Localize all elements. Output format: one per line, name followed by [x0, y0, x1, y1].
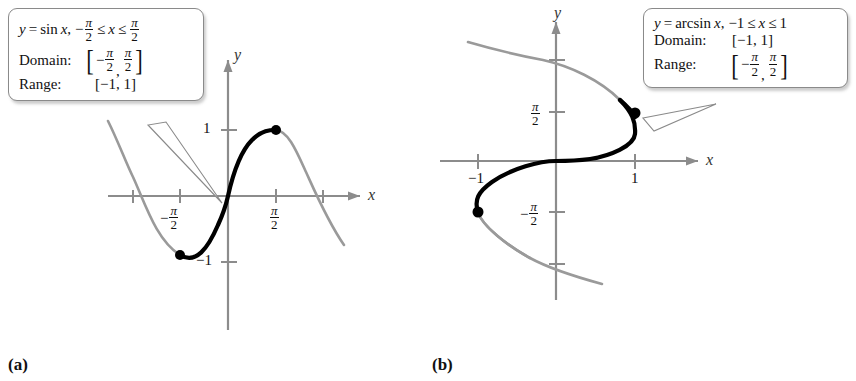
range-interval: [ − π 2 , π 2 ]: [730, 51, 789, 79]
minus-sign: −: [160, 210, 168, 227]
callout-box-sine: y = sin x , − π 2 ≤ x ≤ π 2 Domain:: [8, 8, 204, 101]
equation-le-left: ≤: [94, 22, 108, 38]
equation-upper-fraction: π 2: [130, 16, 139, 44]
interval-comma: ,: [761, 69, 767, 83]
range-label: Range:: [654, 57, 722, 73]
y-tick-label-neg-half-pi: − π 2: [520, 200, 539, 228]
fraction-neg-half-pi: π 2: [169, 204, 178, 232]
fraction-denominator: 2: [529, 213, 538, 228]
bracket-open: [: [731, 53, 739, 77]
fraction-numerator: π: [130, 16, 139, 30]
fraction-neg-half-pi: π 2: [750, 50, 759, 78]
x-axis-label: x: [368, 186, 375, 204]
callout-range-line: Range: [−1, 1]: [19, 77, 193, 93]
x-tick-label-neg-half-pi: − π 2: [160, 204, 179, 232]
y-axis-arrow: [224, 60, 233, 72]
domain-interval: [ − π 2 , π 2 ]: [85, 46, 144, 74]
x-tick-label-one: 1: [631, 170, 639, 187]
y-axis-arrow: [552, 22, 561, 34]
fraction-neg-half-pi: π 2: [529, 200, 538, 228]
callout-domain-line: Domain: [ − π 2 , π 2: [19, 46, 193, 74]
minus-sign: −: [96, 54, 104, 68]
range-label: Range:: [19, 77, 85, 93]
endpoint-dot-lower: [175, 250, 185, 260]
fraction-denominator: 2: [124, 59, 133, 74]
figure-root: y x − π 2 π 2 1 −1 y = sin x ,: [0, 0, 856, 381]
fraction-half-pi: π 2: [124, 46, 133, 74]
fraction-numerator: π: [529, 200, 538, 214]
fraction-denominator: 2: [85, 29, 94, 44]
equation-lhs: y: [19, 22, 26, 38]
callout-equation-line: y = sin x , − π 2 ≤ x ≤ π 2: [19, 16, 193, 44]
fraction-denominator: 2: [750, 64, 759, 79]
domain-label: Domain:: [19, 53, 85, 69]
fraction-denominator: 2: [169, 217, 178, 232]
equation-mid-variable: x: [759, 16, 766, 32]
equation-mid-variable: x: [108, 22, 115, 38]
bracket-close: ]: [781, 53, 789, 77]
callout-domain-line: Domain: [−1, 1]: [654, 33, 837, 49]
fraction-numerator: π: [105, 46, 114, 60]
domain-label: Domain:: [654, 33, 722, 49]
range-value: [−1, 1]: [85, 77, 136, 93]
x-axis-label: x: [706, 151, 713, 169]
equation-lhs: y: [654, 16, 661, 32]
sine-curve-muted: [108, 121, 344, 258]
interval-left-endpoint: − π 2: [95, 46, 116, 74]
equation-upper-bound: 1: [780, 16, 788, 32]
y-axis-label: y: [554, 4, 561, 22]
equation-function: sin: [40, 22, 58, 38]
equation-le-left: ≤: [744, 16, 758, 32]
panel-a: y x − π 2 π 2 1 −1 y = sin x ,: [0, 0, 430, 381]
callout-tail-b: [643, 104, 716, 131]
fraction-numerator: π: [270, 204, 279, 218]
fraction-half-pi: π 2: [531, 100, 540, 128]
endpoint-dot-upper: [630, 108, 641, 119]
equation-lower-sign: −: [71, 22, 83, 38]
callout-box-arcsine: y = arcsin x , −1 ≤ x ≤ 1 Domain: [−1, 1…: [643, 8, 848, 88]
fraction-denominator: 2: [130, 29, 139, 44]
fraction-numerator: π: [124, 46, 133, 60]
panel-caption-b: (b): [432, 355, 453, 375]
x-axis-arrow: [348, 192, 360, 201]
fraction-numerator: π: [769, 50, 778, 64]
y-tick-label-neg-one: −1: [196, 252, 212, 269]
endpoint-dot-upper: [271, 125, 281, 135]
equation-lower-fraction: π 2: [85, 16, 94, 44]
y-axis-label: y: [234, 46, 241, 64]
callout-tail-a: [148, 122, 222, 203]
fraction-neg-half-pi: π 2: [105, 46, 114, 74]
minus-sign: −: [741, 58, 749, 72]
panel-caption-a: (a): [8, 355, 28, 375]
fraction-numerator: π: [750, 50, 759, 64]
x-tick-label-half-pi: π 2: [269, 204, 280, 232]
equation-variable: x: [58, 22, 68, 38]
fraction-denominator: 2: [531, 113, 540, 128]
equation-lower-bound: −1: [724, 16, 744, 32]
bracket-open: [: [86, 48, 94, 72]
callout-equation-line: y = arcsin x , −1 ≤ x ≤ 1: [654, 16, 837, 32]
minus-sign: −: [520, 206, 528, 223]
interval-right-endpoint: π 2: [122, 46, 135, 74]
equation-variable: x: [711, 16, 721, 32]
fraction-denominator: 2: [105, 59, 114, 74]
fraction-denominator: 2: [769, 64, 778, 79]
fraction-numerator: π: [85, 16, 94, 30]
panel-b: y x −1 1 π 2 − π 2 y = arcsin x ,: [430, 0, 856, 381]
bracket-close: ]: [136, 48, 144, 72]
x-tick-label-neg-one: −1: [468, 170, 484, 187]
y-tick-label-one: 1: [203, 120, 211, 137]
fraction-numerator: π: [531, 100, 540, 114]
fraction-half-pi: π 2: [270, 204, 279, 232]
equation-equals: =: [661, 16, 675, 32]
interval-left-endpoint: − π 2: [740, 51, 761, 79]
fraction-denominator: 2: [270, 217, 279, 232]
endpoint-dot-lower: [473, 207, 484, 218]
equation-function: arcsin: [675, 16, 711, 32]
equation-le-right: ≤: [765, 16, 779, 32]
x-axis-arrow: [686, 157, 698, 166]
interval-comma: ,: [116, 65, 122, 79]
equation-le-right: ≤: [115, 22, 129, 38]
callout-range-line: Range: [ − π 2 , π 2: [654, 51, 837, 79]
y-tick-label-half-pi: π 2: [530, 100, 541, 128]
